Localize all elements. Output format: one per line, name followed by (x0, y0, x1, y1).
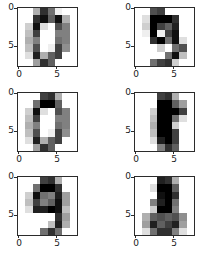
pixel-5-2-2 (150, 192, 157, 199)
pixel-2-0-1 (25, 93, 32, 100)
pixel-1-4-3 (157, 37, 164, 44)
pixel-5-5-3 (157, 213, 164, 220)
axes-5 (134, 176, 195, 236)
pixel-4-1-6 (62, 184, 69, 191)
pixel-3-2-7 (187, 108, 194, 115)
pixel-3-3-0 (135, 115, 142, 122)
pixel-1-5-5 (172, 44, 179, 51)
pixel-2-0-3 (40, 93, 47, 100)
pixel-4-0-4 (48, 177, 55, 184)
ytick-mark-0-0 (14, 8, 17, 9)
pixel-4-6-2 (33, 221, 40, 228)
pixel-1-0-4 (165, 8, 172, 15)
subplot-panel-4: 0 5 0 5 (0, 169, 96, 253)
pixel-5-2-1 (142, 192, 149, 199)
pixel-2-4-3 (40, 122, 47, 129)
pixel-2-6-4 (48, 137, 55, 144)
pixel-1-3-5 (172, 30, 179, 37)
pixel-5-3-1 (142, 199, 149, 206)
pixel-1-1-1 (142, 15, 149, 22)
pixel-2-1-1 (25, 100, 32, 107)
pixel-2-3-3 (40, 115, 47, 122)
pixel-1-3-2 (150, 30, 157, 37)
pixel-4-7-1 (25, 228, 32, 235)
xtick-label-4-5: 5 (52, 238, 62, 248)
pixel-5-7-3 (157, 228, 164, 235)
pixel-1-2-2 (150, 23, 157, 30)
pixel-0-1-3 (40, 15, 47, 22)
pixel-1-6-1 (142, 52, 149, 59)
pixel-4-6-3 (40, 221, 47, 228)
ytick-mark-3-0 (131, 93, 134, 94)
ytick-label-5-0: 0 (121, 171, 131, 181)
pixel-1-0-1 (142, 8, 149, 15)
pixel-5-6-4 (165, 221, 172, 228)
pixel-0-6-7 (70, 52, 77, 59)
pixel-3-0-7 (187, 93, 194, 100)
pixel-4-2-5 (55, 192, 62, 199)
pixel-5-0-0 (135, 177, 142, 184)
xtick-label-0-5: 5 (52, 69, 62, 79)
pixel-3-4-1 (142, 122, 149, 129)
pixel-0-7-0 (18, 59, 25, 66)
pixel-3-2-1 (142, 108, 149, 115)
pixel-1-4-2 (150, 37, 157, 44)
pixel-2-0-5 (55, 93, 62, 100)
ytick-label-3-0: 0 (121, 87, 131, 97)
pixel-4-4-1 (25, 206, 32, 213)
pixel-2-6-6 (62, 137, 69, 144)
pixel-5-2-7 (187, 192, 194, 199)
pixel-5-2-6 (179, 192, 186, 199)
xtick-label-1-0: 0 (131, 69, 141, 79)
pixel-1-4-6 (179, 37, 186, 44)
pixel-2-2-4 (48, 108, 55, 115)
pixel-4-0-7 (70, 177, 77, 184)
pixel-2-5-6 (62, 129, 69, 136)
pixel-3-7-7 (187, 144, 194, 151)
pixel-2-2-1 (25, 108, 32, 115)
pixel-0-7-5 (55, 59, 62, 66)
pixel-0-0-2 (33, 8, 40, 15)
pixel-5-1-3 (157, 184, 164, 191)
pixel-0-4-0 (18, 37, 25, 44)
pixel-4-2-4 (48, 192, 55, 199)
pixel-3-5-7 (187, 129, 194, 136)
pixel-2-7-0 (18, 144, 25, 151)
pixel-4-2-0 (18, 192, 25, 199)
pixel-3-7-2 (150, 144, 157, 151)
pixel-5-1-2 (150, 184, 157, 191)
pixel-4-5-1 (25, 213, 32, 220)
pixel-0-5-0 (18, 44, 25, 51)
pixel-3-3-1 (142, 115, 149, 122)
pixel-0-3-7 (70, 30, 77, 37)
pixel-3-6-1 (142, 137, 149, 144)
pixel-2-2-5 (55, 108, 62, 115)
pixel-4-2-3 (40, 192, 47, 199)
pixel-2-7-2 (33, 144, 40, 151)
pixel-3-3-7 (187, 115, 194, 122)
pixel-3-3-3 (157, 115, 164, 122)
pixel-3-3-5 (172, 115, 179, 122)
pixel-3-4-2 (150, 122, 157, 129)
pixel-4-0-5 (55, 177, 62, 184)
pixel-5-3-3 (157, 199, 164, 206)
pixel-3-4-7 (187, 122, 194, 129)
subplot-panel-3: 0 5 0 5 (117, 85, 204, 169)
pixel-2-4-7 (70, 122, 77, 129)
pixel-2-4-2 (33, 122, 40, 129)
pixel-0-3-3 (40, 30, 47, 37)
xtick-label-4-0: 0 (14, 238, 24, 248)
pixel-3-4-4 (165, 122, 172, 129)
pixel-0-2-2 (33, 23, 40, 30)
pixel-2-4-5 (55, 122, 62, 129)
pixel-3-4-5 (172, 122, 179, 129)
pixel-0-4-7 (70, 37, 77, 44)
pixel-5-0-2 (150, 177, 157, 184)
pixel-5-2-5 (172, 192, 179, 199)
pixel-0-1-5 (55, 15, 62, 22)
pixel-0-6-1 (25, 52, 32, 59)
pixel-1-1-6 (179, 15, 186, 22)
pixel-2-7-1 (25, 144, 32, 151)
axes-3 (134, 92, 195, 152)
ytick-mark-0-5 (14, 46, 17, 47)
